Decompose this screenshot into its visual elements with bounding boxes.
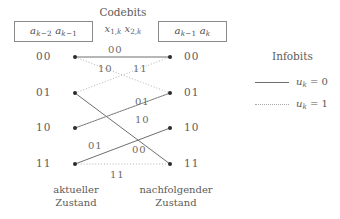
right-state-label-10: 10 — [184, 121, 199, 133]
right-state-box-label: ak−1 ak — [175, 25, 211, 38]
edge-label-bottom-right: 00 — [132, 144, 147, 155]
edge-10-dotted — [75, 93, 170, 128]
edge-label-bottom-below: 11 — [110, 169, 125, 180]
right-state-label-11: 11 — [184, 157, 199, 169]
edge-00-to-01 — [75, 57, 170, 93]
legend-title: Infobits — [272, 50, 313, 62]
left-axis-caption: aktueller Zustand — [35, 183, 117, 209]
legend-row-solid: uk = 0 — [255, 76, 328, 89]
left-axis-caption-line1: aktueller — [35, 183, 117, 196]
node-right-10 — [168, 126, 172, 130]
edge-10-to-01 — [75, 93, 170, 128]
edge-label-bottom-left: 01 — [88, 140, 103, 151]
codebits-title: Codebits — [78, 6, 168, 18]
left-state-box: ak−2 ak−1 — [14, 21, 93, 42]
node-left-11 — [73, 162, 77, 166]
left-state-label-11: 11 — [36, 157, 51, 169]
edge-label-top-above: 00 — [108, 44, 123, 55]
edge-label-top-below-left: 10 — [98, 63, 113, 74]
legend-dotted-label: uk = 1 — [296, 98, 328, 111]
node-right-01 — [168, 91, 172, 95]
left-axis-caption-line2: Zustand — [35, 196, 117, 209]
edge-label-mid-lower: 10 — [135, 114, 150, 125]
left-state-label-01: 01 — [36, 86, 51, 98]
edge-label-top-below-right: 11 — [133, 63, 148, 74]
legend-solid-label: uk = 0 — [296, 76, 328, 89]
node-right-00 — [168, 55, 172, 59]
node-left-01 — [73, 91, 77, 95]
dotted-line-icon — [255, 104, 289, 105]
left-state-box-label: ak−2 ak−1 — [30, 25, 77, 38]
trellis-diagram: Codebits x1,k x2,k ak−2 ak−1 ak−1 ak 00 … — [0, 0, 340, 219]
node-left-10 — [73, 126, 77, 130]
node-right-11 — [168, 162, 172, 166]
right-state-label-00: 00 — [184, 50, 199, 62]
left-state-label-10: 10 — [36, 121, 51, 133]
node-left-00 — [73, 55, 77, 59]
edge-01-to-00 — [75, 57, 170, 93]
edge-label-mid-upper: 01 — [135, 96, 150, 107]
legend-row-dotted: uk = 1 — [255, 98, 328, 111]
right-state-box: ak−1 ak — [158, 21, 227, 42]
edge-01-to-11 — [75, 93, 170, 164]
right-state-label-01: 01 — [184, 86, 199, 98]
right-axis-caption: nachfolgender Zustand — [128, 183, 224, 209]
right-axis-caption-line1: nachfolgender — [128, 183, 224, 196]
right-axis-caption-line2: Zustand — [128, 196, 224, 209]
solid-line-icon — [255, 82, 289, 83]
left-state-label-00: 00 — [36, 50, 51, 62]
